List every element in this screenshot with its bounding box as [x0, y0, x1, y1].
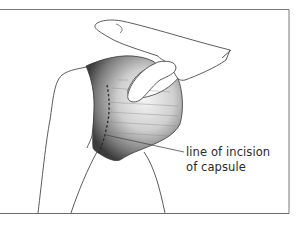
scapula-outline — [50, 66, 95, 148]
incision-label: line of incision of capsule — [186, 145, 270, 175]
shoulder-capsule-diagram: line of incision of capsule — [0, 0, 302, 226]
label-line-2: of capsule — [186, 160, 270, 175]
diagram-artwork — [0, 0, 302, 226]
label-line-1: line of incision — [186, 145, 270, 160]
